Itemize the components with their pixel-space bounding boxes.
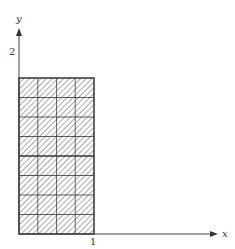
x-axis-arrow-icon <box>210 231 218 237</box>
x-tick-label: 1 <box>90 236 96 247</box>
y-axis-label: y <box>15 13 22 24</box>
x-axis-label: x <box>222 228 228 239</box>
y-tick-label: 2 <box>9 46 15 57</box>
y-axis-arrow-icon <box>16 28 22 36</box>
diagram: x y 1 2 <box>0 0 235 249</box>
